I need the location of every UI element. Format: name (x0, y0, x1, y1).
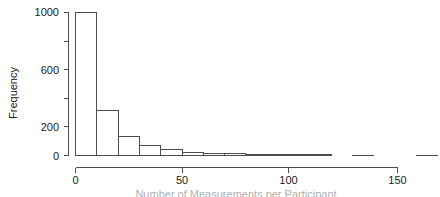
x-tick-label-50: 50 (176, 174, 188, 186)
x-tick-label-0: 0 (72, 174, 78, 186)
bar-1 (97, 111, 118, 156)
x-tick-label-100: 100 (279, 174, 297, 186)
bar-3 (139, 145, 160, 155)
bar-9 (267, 155, 288, 156)
histogram-plot: 1000 600 200 0 Frequency (0, 0, 440, 197)
bar-5 (182, 152, 203, 155)
x-tick-label-150: 150 (388, 174, 406, 186)
bar-6 (203, 153, 224, 155)
chart-screenshot: 1000 600 200 0 Frequency (0, 0, 440, 197)
x-axis-title: Number of Measurements per Participant (135, 188, 336, 197)
bar-8 (246, 154, 267, 155)
y-tick-label-600: 600 (41, 64, 59, 76)
bar-11 (310, 155, 331, 156)
bar-4 (161, 150, 182, 156)
bar-7 (225, 154, 246, 156)
bar-10 (289, 155, 310, 156)
bar-0 (76, 13, 97, 156)
histogram-bars (76, 13, 438, 156)
y-tick-label-200: 200 (41, 121, 59, 133)
x-axis: 0 50 100 150 (72, 168, 406, 187)
y-axis-title: Frequency (7, 67, 19, 119)
y-tick-label-0: 0 (53, 150, 59, 162)
y-tick-label-1000: 1000 (35, 6, 59, 18)
bar-2 (118, 137, 139, 156)
y-axis: 1000 600 200 0 (35, 6, 69, 162)
